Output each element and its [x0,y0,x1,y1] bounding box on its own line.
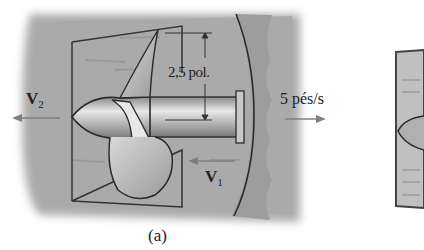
boat-speed-label: 5 pés/s [280,90,324,108]
v2-symbol: V [26,89,38,108]
propeller-diagram: 2,5 pol. V2 V1 5 pés/s (a) [0,0,424,250]
v1-symbol: V [205,167,217,186]
dimension-label: 2,5 pol. [168,64,209,81]
diagram-graphic [0,0,424,250]
v2-subscript: 2 [38,98,44,110]
propeller-shaft [138,97,238,137]
panel-caption-a: (a) [148,226,167,246]
velocity-v1-label: V1 [205,167,223,188]
velocity-v2-label: V2 [26,89,44,110]
v1-subscript: 1 [217,176,223,188]
